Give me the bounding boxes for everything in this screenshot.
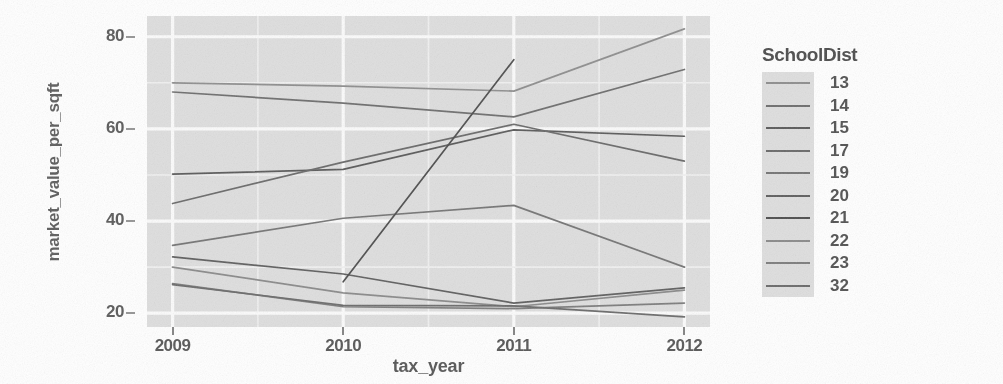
legend-item-32[interactable]: 32 [762,275,932,298]
legend-key-swatch [762,95,814,118]
legend-key-swatch [762,140,814,163]
y-axis-ticks: 20406080 [74,0,124,384]
x-tick-mark [683,327,685,335]
legend-item-label: 22 [830,231,849,251]
legend-item-15[interactable]: 15 [762,117,932,140]
legend-item-label: 32 [830,276,849,296]
y-tick-mark [126,312,135,314]
legend-item-label: 21 [830,208,849,228]
legend-line-icon [766,195,810,197]
legend-item-21[interactable]: 21 [762,207,932,230]
legend-item-22[interactable]: 22 [762,230,932,253]
legend-key-swatch [762,117,814,140]
legend-key-swatch [762,230,814,253]
y-tick-mark [126,220,135,222]
legend-line-icon [766,217,810,219]
series-line-15 [173,130,685,174]
legend-key-swatch [762,275,814,298]
y-tick-label: 40 [80,210,124,230]
chart-figure: market_value_per_sqft 20406080 200920102… [0,0,1003,384]
legend-item-label: 23 [830,253,849,273]
y-tick-mark [126,36,135,38]
legend-item-23[interactable]: 23 [762,252,932,275]
x-tick-mark [342,327,344,335]
y-tick-mark [126,128,135,130]
series-line-14 [173,69,685,116]
y-tick-label: 20 [80,302,124,322]
legend-line-icon [766,262,810,264]
legend-line-icon [766,240,810,242]
legend-item-label: 15 [830,118,849,138]
x-tick-label: 2012 [644,336,724,356]
legend-key-swatch [762,207,814,230]
x-tick-mark [513,327,515,335]
y-axis-title: market_value_per_sqft [44,82,66,262]
series-line-32 [173,285,685,317]
legend-item-13[interactable]: 13 [762,72,932,95]
series-line-19 [173,205,685,267]
series-line-21 [343,60,514,282]
legend-item-14[interactable]: 14 [762,95,932,118]
legend-item-17[interactable]: 17 [762,140,932,163]
series-line-22 [173,267,685,307]
x-tick-label: 2010 [303,336,383,356]
legend-item-label: 13 [830,73,849,93]
legend-item-label: 14 [830,96,849,116]
legend-item-label: 17 [830,141,849,161]
legend-key-swatch [762,162,814,185]
y-tick-label: 60 [80,118,124,138]
x-axis-title: tax_year [147,356,710,377]
legend-line-icon [766,285,810,287]
x-tick-label: 2011 [474,336,554,356]
series-line-17 [173,124,685,203]
series-line-20 [173,257,685,303]
legend-title: SchoolDist [762,44,932,66]
legend-item-label: 20 [830,186,849,206]
legend-line-icon [766,150,810,152]
legend-item-label: 19 [830,163,849,183]
legend-key-swatch [762,252,814,275]
legend-item-19[interactable]: 19 [762,162,932,185]
legend-line-icon [766,105,810,107]
x-tick-mark [172,327,174,335]
series-line-13 [173,29,685,91]
x-tick-label: 2009 [133,336,213,356]
series-lines [147,16,710,327]
y-tick-label: 80 [80,26,124,46]
legend-key-swatch [762,72,814,95]
legend-line-icon [766,172,810,174]
legend-line-icon [766,82,810,84]
legend-line-icon [766,127,810,129]
legend: SchoolDist 13141517192021222332 [762,44,932,297]
legend-key-swatch [762,185,814,208]
plot-panel [147,16,710,327]
legend-items: 13141517192021222332 [762,72,932,297]
legend-item-20[interactable]: 20 [762,185,932,208]
